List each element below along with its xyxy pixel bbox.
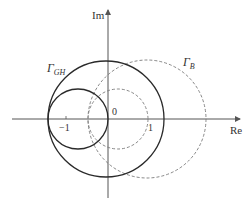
tick-minus-one-label: −1 bbox=[59, 122, 70, 133]
nyquist-diagram: Im Re 0 −1 1 ΓGH ΓB bbox=[0, 0, 252, 210]
tick-one-label: 1 bbox=[148, 122, 153, 133]
gamma-b-label-sub: B bbox=[190, 62, 195, 71]
gamma-gh-label-sub: GH bbox=[54, 68, 67, 77]
origin-label: 0 bbox=[112, 106, 117, 117]
real-axis-label: Re bbox=[230, 124, 242, 136]
gamma-b-label: ΓB bbox=[182, 55, 195, 71]
gamma-gh-label: ΓGH bbox=[46, 61, 67, 77]
imag-axis-label: Im bbox=[92, 9, 105, 21]
